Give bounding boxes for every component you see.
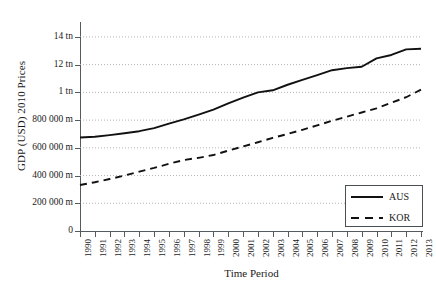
x-tick-mark <box>80 232 81 237</box>
x-tick-label: 1994 <box>143 239 152 257</box>
legend-line-dashed-icon <box>350 212 384 224</box>
y-tick-label: 0 <box>0 226 78 236</box>
y-axis-tick-labels: 0200 000 m400 000 m600 000 m800 000 m1 t… <box>0 0 78 292</box>
x-axis-title: Time Period <box>80 267 423 279</box>
y-tick-mark <box>75 231 81 232</box>
x-tick-label: 1991 <box>99 239 108 257</box>
y-tick-mark <box>75 37 81 38</box>
x-tick-label: 2010 <box>381 239 390 257</box>
x-tick-label: 1992 <box>114 239 123 257</box>
y-tick-mark <box>75 120 81 121</box>
x-tick-label: 1995 <box>158 239 167 257</box>
x-tick-label: 2013 <box>425 239 434 257</box>
x-tick-mark <box>406 232 407 237</box>
x-tick-label: 2011 <box>395 239 404 257</box>
y-tick-mark <box>75 92 81 93</box>
x-tick-mark <box>347 232 348 237</box>
x-tick-label: 2005 <box>306 239 315 257</box>
x-tick-label: 1996 <box>173 239 182 257</box>
x-tick-label: 2009 <box>366 239 375 257</box>
x-tick-mark <box>154 232 155 237</box>
y-tick-label: 14 tn <box>0 32 78 42</box>
series-line-kor <box>80 90 421 185</box>
x-tick-mark <box>258 232 259 237</box>
x-tick-mark <box>169 232 170 237</box>
x-tick-mark <box>332 232 333 237</box>
x-tick-label: 1999 <box>217 239 226 257</box>
x-tick-mark <box>273 232 274 237</box>
x-tick-mark <box>421 232 422 237</box>
legend-entry-aus: AUS <box>346 186 422 207</box>
x-tick-mark <box>228 232 229 237</box>
x-tick-label: 1998 <box>203 239 212 257</box>
x-tick-mark <box>377 232 378 237</box>
series-line-aus <box>80 49 421 138</box>
y-tick-mark <box>75 65 81 66</box>
y-tick-label: 200 000 m <box>0 199 78 209</box>
x-axis-line <box>80 231 423 232</box>
x-tick-mark <box>124 232 125 237</box>
y-tick-label: 400 000 m <box>0 171 78 181</box>
x-tick-label: 2007 <box>336 239 345 257</box>
x-tick-label: 1993 <box>128 239 137 257</box>
y-tick-mark <box>75 176 81 177</box>
y-tick-label: 1 tn <box>0 88 78 98</box>
x-tick-mark <box>288 232 289 237</box>
x-tick-label: 2001 <box>247 239 256 257</box>
y-tick-mark <box>75 203 81 204</box>
x-tick-label: 2000 <box>232 239 241 257</box>
x-tick-mark <box>139 232 140 237</box>
x-tick-label: 1990 <box>84 239 93 257</box>
x-tick-mark <box>317 232 318 237</box>
y-tick-label: 600 000 m <box>0 143 78 153</box>
chart-legend: AUS KOR <box>345 185 423 227</box>
x-tick-label: 2004 <box>292 239 301 257</box>
x-tick-mark <box>199 232 200 237</box>
gdp-line-chart: GDP (USD) 2010 Prices 0200 000 m400 000 … <box>0 0 436 292</box>
x-tick-mark <box>184 232 185 237</box>
x-tick-mark <box>243 232 244 237</box>
x-tick-mark <box>391 232 392 237</box>
x-tick-mark <box>213 232 214 237</box>
x-tick-label: 2003 <box>277 239 286 257</box>
y-tick-mark <box>75 148 81 149</box>
x-axis-title-text: Time Period <box>224 267 278 279</box>
x-tick-label: 2008 <box>351 239 360 257</box>
x-tick-mark <box>362 232 363 237</box>
x-tick-label: 2006 <box>321 239 330 257</box>
legend-line-solid-icon <box>350 191 384 203</box>
y-tick-label: 12 tn <box>0 60 78 70</box>
x-tick-label: 1997 <box>188 239 197 257</box>
x-tick-mark <box>110 232 111 237</box>
y-tick-label: 800 000 m <box>0 115 78 125</box>
legend-label-aus: AUS <box>389 191 409 202</box>
x-tick-label: 2002 <box>262 239 271 257</box>
legend-label-kor: KOR <box>389 212 410 223</box>
x-tick-label: 2012 <box>410 239 419 257</box>
x-tick-mark <box>95 232 96 237</box>
legend-entry-kor: KOR <box>346 207 422 228</box>
x-tick-mark <box>302 232 303 237</box>
